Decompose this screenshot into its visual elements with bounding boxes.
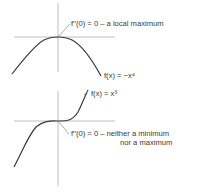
bottom-annotation-line2: nor a maximum bbox=[120, 138, 172, 147]
top-function-label: f(x) = −x⁴ bbox=[104, 71, 135, 80]
top-annotation: f′′(0) = 0 – a local maximum bbox=[71, 19, 164, 28]
bottom-function-label: f(x) = x³ bbox=[91, 89, 117, 98]
bottom-leader-line bbox=[58, 121, 69, 134]
top-leader-line bbox=[58, 24, 70, 37]
top-curve-neg-x4 bbox=[12, 37, 101, 76]
bottom-annotation-line1: f′′(0) = 0 – neither a minimum bbox=[71, 129, 169, 138]
